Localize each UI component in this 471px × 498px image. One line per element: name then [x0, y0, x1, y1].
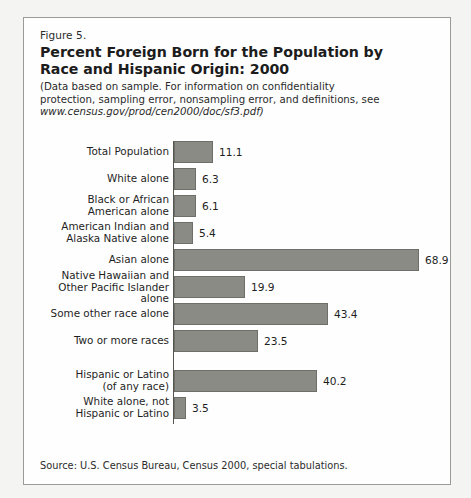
bar-value-label: 19.9 [251, 281, 275, 293]
bar-category-label: Black or AfricanAmerican alone [29, 194, 169, 217]
bar [174, 330, 258, 352]
bar-row: Two or more races23.5 [24, 330, 452, 352]
figure-note-url: www.census.gov/prod/cen2000/doc/sf3.pdf) [40, 106, 264, 117]
figure-note-line2: protection, sampling error, nonsampling … [40, 94, 379, 105]
bar-category-label: White alone, notHispanic or Latino [29, 396, 169, 419]
bar-row: Total Population11.1 [24, 141, 452, 163]
bar-row: Some other race alone43.4 [24, 303, 452, 325]
figure-source: Source: U.S. Census Bureau, Census 2000,… [40, 460, 348, 471]
bar [174, 397, 186, 419]
figure-title: Percent Foreign Born for the Population … [40, 44, 412, 78]
bar-category-label-line2: Alaska Native alone [66, 232, 169, 244]
figure-note-line1: (Data based on sample. For information o… [40, 81, 335, 92]
bar [174, 249, 419, 271]
bar-row: White alone, notHispanic or Latino3.5 [24, 397, 452, 419]
bar-row: Black or AfricanAmerican alone6.1 [24, 195, 452, 217]
bar-category-label-line1: Native Hawaiian and [61, 269, 169, 281]
bar-value-label: 23.5 [264, 335, 288, 347]
bar-category-label: Two or more races [29, 335, 169, 347]
bar-category-label: Total Population [29, 146, 169, 158]
bar [174, 141, 213, 163]
bar-value-label: 11.1 [219, 146, 243, 158]
bar-row: Native Hawaiian andOther Pacific Islande… [24, 276, 452, 298]
bar-category-label: Native Hawaiian andOther Pacific Islande… [29, 270, 169, 305]
bar-chart: Total Population11.1White alone6.3Black … [24, 124, 452, 424]
bar-category-label: White alone [29, 173, 169, 185]
bar-value-label: 5.4 [199, 227, 216, 239]
bar [174, 276, 245, 298]
bar [174, 168, 196, 190]
bar-category-label: American Indian andAlaska Native alone [29, 221, 169, 244]
bar-value-label: 3.5 [192, 402, 209, 414]
bar-row: American Indian andAlaska Native alone5.… [24, 222, 452, 244]
bar-value-label: 6.1 [202, 200, 219, 212]
bar-category-label-line2: American alone [88, 205, 169, 217]
bar [174, 195, 196, 217]
bar-category-label: Asian alone [29, 254, 169, 266]
bar-row: White alone6.3 [24, 168, 452, 190]
bar-value-label: 40.2 [323, 375, 347, 387]
bar [174, 303, 328, 325]
bar-value-label: 68.9 [425, 254, 449, 266]
bar-category-label: Some other race alone [29, 308, 169, 320]
bar [174, 370, 317, 392]
bar-category-label-line2: Other Pacific Islander alone [58, 280, 169, 304]
bar-category-label-line1: American Indian and [61, 220, 169, 232]
figure-note: (Data based on sample. For information o… [40, 81, 408, 119]
bar-category-label-line2: (of any race) [102, 380, 169, 392]
bar-row: Hispanic or Latino(of any race)40.2 [24, 370, 452, 392]
bar-category-label-line1: Hispanic or Latino [75, 368, 169, 380]
bar [174, 222, 193, 244]
figure-number: Figure 5. [40, 29, 86, 41]
bar-value-label: 6.3 [202, 173, 219, 185]
bar-category-label-line2: Hispanic or Latino [75, 407, 169, 419]
bar-category-label-line1: White alone, not [83, 395, 169, 407]
bar-category-label-line1: Black or African [87, 193, 169, 205]
bar-category-label: Hispanic or Latino(of any race) [29, 369, 169, 392]
bar-value-label: 43.4 [334, 308, 358, 320]
figure-frame: Figure 5. Percent Foreign Born for the P… [23, 17, 451, 485]
